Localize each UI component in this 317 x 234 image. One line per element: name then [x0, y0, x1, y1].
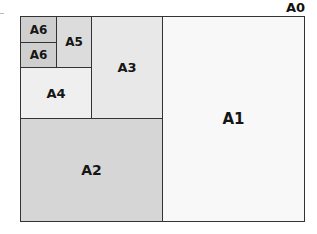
sheet-a5: A5: [56, 16, 92, 68]
sheet-a2: A2: [20, 118, 163, 222]
sheet-a4: A4: [20, 67, 92, 119]
sheet-a6-bottom-label: A6: [30, 48, 48, 62]
sheet-a5-label: A5: [65, 35, 83, 49]
sheet-a4-label: A4: [46, 86, 65, 101]
corner-mark: [0, 13, 4, 14]
sheet-a3: A3: [91, 16, 163, 119]
sheet-a1-label: A1: [222, 110, 244, 128]
sheet-a1: A1: [162, 16, 305, 222]
sheet-a6-top-label: A6: [30, 23, 48, 37]
sheet-a6-top: A6: [20, 16, 57, 43]
sheet-a6-bottom: A6: [20, 42, 57, 68]
sheet-a3-label: A3: [117, 60, 136, 75]
a0-title: A0: [286, 0, 305, 15]
sheet-a2-label: A2: [81, 162, 102, 178]
